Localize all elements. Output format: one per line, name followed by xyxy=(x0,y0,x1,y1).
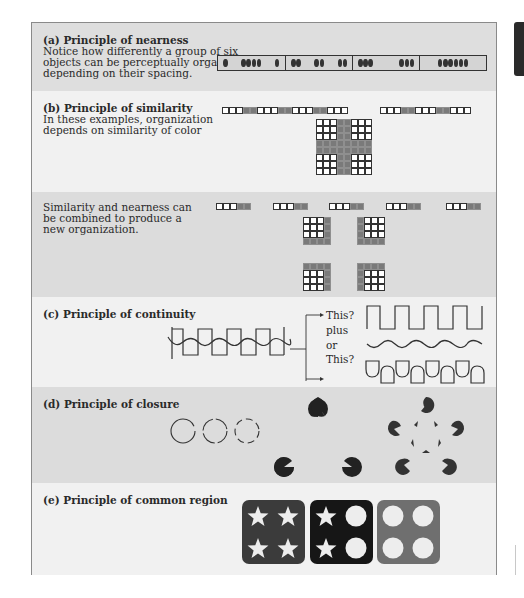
gray-square xyxy=(344,168,351,175)
circle-icon xyxy=(413,538,434,559)
white-square xyxy=(364,224,371,231)
gray-square xyxy=(310,238,317,245)
white-square xyxy=(371,217,378,224)
nearness-dot xyxy=(443,59,448,67)
gray-square xyxy=(243,107,250,114)
gray-square xyxy=(323,147,330,154)
gray-square xyxy=(237,203,244,210)
nearness-dot xyxy=(438,59,443,67)
nearness-dot xyxy=(343,59,348,67)
white-square xyxy=(364,277,371,284)
gray-square xyxy=(324,263,331,270)
white-square xyxy=(364,270,371,277)
gray-square xyxy=(278,107,285,114)
white-square xyxy=(394,107,401,114)
gray-square xyxy=(324,231,331,238)
closure-kanizsa-triangle xyxy=(270,395,366,479)
gray-square xyxy=(357,284,364,291)
white-square xyxy=(316,154,323,161)
nearness-dot xyxy=(448,59,453,67)
gray-square xyxy=(337,168,344,175)
continuity-option-1-label: This? xyxy=(326,309,354,321)
white-square xyxy=(310,224,317,231)
white-square xyxy=(292,107,299,114)
gray-square xyxy=(474,203,481,210)
nearness-dot xyxy=(314,59,319,67)
section-continuity: (c) Principle of continuity This? plus o… xyxy=(32,297,496,387)
white-square xyxy=(429,107,436,114)
gray-square xyxy=(401,107,408,114)
gray-square xyxy=(337,161,344,168)
gray-square xyxy=(357,238,364,245)
star-icon xyxy=(316,538,337,558)
white-square xyxy=(222,107,229,114)
gray-square xyxy=(365,140,372,147)
white-square xyxy=(230,203,237,210)
white-square xyxy=(364,231,371,238)
nearness-dot xyxy=(410,59,415,67)
gray-square xyxy=(303,238,310,245)
gray-square xyxy=(324,277,331,284)
gray-square xyxy=(351,140,358,147)
white-square xyxy=(378,277,385,284)
white-square xyxy=(358,161,365,168)
white-square xyxy=(393,203,400,210)
white-square xyxy=(316,126,323,133)
gray-square xyxy=(378,263,385,270)
white-square xyxy=(310,270,317,277)
gray-square xyxy=(250,107,257,114)
chapter-tab xyxy=(514,22,524,76)
nearness-dot xyxy=(241,59,246,67)
nearness-desc-line-3: depending on their spacing. xyxy=(43,68,192,80)
white-square xyxy=(358,168,365,175)
nearness-dot xyxy=(405,59,410,67)
gray-square xyxy=(313,107,320,114)
gray-square xyxy=(310,263,317,270)
white-square xyxy=(306,107,313,114)
gray-square xyxy=(294,203,301,210)
page-edge-line xyxy=(515,545,516,575)
gray-square xyxy=(357,270,364,277)
white-square xyxy=(336,203,343,210)
star-icon xyxy=(278,538,299,558)
gray-square xyxy=(378,238,385,245)
white-square xyxy=(330,161,337,168)
nearness-dot xyxy=(252,59,257,67)
white-square xyxy=(365,168,372,175)
white-square xyxy=(365,161,372,168)
white-square xyxy=(365,133,372,140)
continuity-sine-wave xyxy=(366,337,484,351)
gray-square xyxy=(344,154,351,161)
white-square xyxy=(280,203,287,210)
closure-title: (d) Principle of closure xyxy=(43,398,179,410)
white-square xyxy=(450,107,457,114)
white-square xyxy=(303,277,310,284)
common-region-box xyxy=(310,500,373,564)
nearness-dot xyxy=(338,59,343,67)
white-square xyxy=(303,284,310,291)
gray-square xyxy=(364,263,371,270)
circle-icon xyxy=(383,506,404,527)
gray-square xyxy=(344,147,351,154)
white-square xyxy=(330,168,337,175)
white-square xyxy=(316,119,323,126)
gray-square xyxy=(443,107,450,114)
white-square xyxy=(323,119,330,126)
star-icon xyxy=(316,506,337,526)
nearness-dot xyxy=(296,59,301,67)
gray-square xyxy=(316,147,323,154)
gray-square xyxy=(285,107,292,114)
gray-square xyxy=(324,270,331,277)
nearness-dot xyxy=(459,59,464,67)
white-square xyxy=(343,203,350,210)
white-square xyxy=(303,224,310,231)
gray-square xyxy=(344,140,351,147)
white-square xyxy=(358,154,365,161)
white-square xyxy=(378,270,385,277)
continuity-bracket-arrows xyxy=(290,309,330,379)
white-square xyxy=(460,203,467,210)
white-square xyxy=(317,217,324,224)
section-common-region: (e) Principle of common region xyxy=(32,483,496,575)
nearness-dot xyxy=(320,59,325,67)
gray-square xyxy=(317,263,324,270)
